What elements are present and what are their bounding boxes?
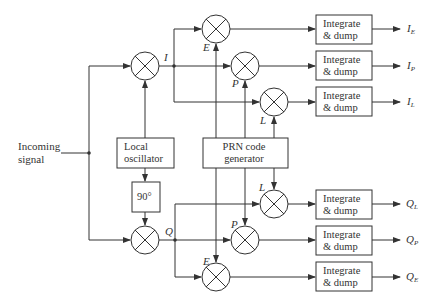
integrate-dump-label-qe: Integrate& dump	[323, 265, 360, 289]
mixer-ql-icon	[260, 190, 288, 218]
mixer-label-upper-l: L	[260, 114, 266, 127]
output-ie: IE	[407, 22, 415, 39]
integrate-dump-label-ie: Integrate& dump	[323, 18, 360, 42]
mixer-il-icon	[260, 88, 288, 116]
output-ip: IP	[407, 59, 415, 76]
branch-label-q: Q	[165, 225, 173, 238]
output-il: IL	[407, 95, 415, 112]
prn-generator-label: PRN code generator	[224, 141, 268, 165]
integrate-dump-label-ql: Integrate& dump	[323, 193, 360, 217]
integrate-dump-label-ip: Integrate& dump	[323, 54, 360, 78]
mixer-label-lower-l: L	[259, 181, 265, 194]
mixer-label-upper-p: P	[232, 77, 239, 90]
mixer-label-lower-p: P	[231, 218, 238, 231]
phase-shift-label: 90°	[137, 191, 152, 203]
output-ql: QL	[406, 197, 418, 214]
output-qp: QP	[406, 233, 418, 250]
mixer-ip-icon	[231, 52, 259, 80]
integrate-dump-label-il: Integrate& dump	[323, 90, 360, 114]
diagram-canvas	[0, 0, 434, 306]
mixer-ie-icon	[202, 15, 230, 43]
mixer-label-upper-e: E	[203, 41, 210, 54]
integrate-dump-label-qp: Integrate& dump	[323, 229, 360, 253]
mixer-i-icon	[131, 52, 159, 80]
branch-label-i: I	[164, 51, 168, 64]
input-label: Incoming signal	[18, 140, 60, 166]
local-oscillator-label: Local oscillator	[124, 141, 163, 165]
mixer-q-icon	[131, 226, 159, 254]
output-qe: QE	[406, 270, 418, 287]
mixer-label-lower-e: E	[203, 255, 210, 268]
